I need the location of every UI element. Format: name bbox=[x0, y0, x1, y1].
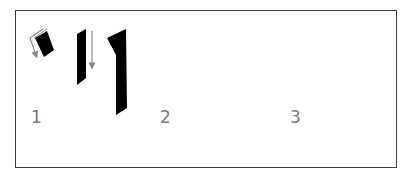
stroke-1b-vertical bbox=[77, 29, 86, 85]
step-3-label: 3 bbox=[290, 109, 301, 126]
stroke-1c-hooked bbox=[107, 29, 127, 115]
stroke-diagram bbox=[0, 0, 407, 180]
step-1-label: 1 bbox=[31, 109, 42, 126]
step-1-group bbox=[30, 29, 127, 115]
step-2-label: 2 bbox=[160, 109, 171, 126]
